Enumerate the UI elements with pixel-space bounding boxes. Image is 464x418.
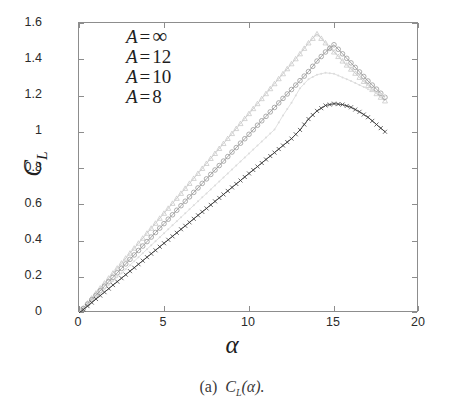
y-tick-label: 0.2	[0, 268, 42, 282]
x-axis-label: α	[0, 331, 464, 359]
cross-marker-icon	[84, 88, 124, 104]
legend-entry-label: A=8	[126, 87, 162, 106]
x-tick-label: 20	[398, 315, 438, 329]
legend-entry[interactable]: A=10	[84, 66, 204, 86]
x-tick-label: 5	[143, 315, 183, 329]
figure-caption: (a) CL(α).	[0, 378, 464, 398]
legend-entry-label: A=10	[126, 67, 171, 86]
y-tick-label: 1.4	[0, 51, 42, 65]
circle-marker-icon	[84, 48, 124, 64]
y-tick-label: 0.4	[0, 232, 42, 246]
y-tick-label: 0	[0, 304, 42, 318]
legend: A=∞ A=12 A=10 A=8	[84, 26, 204, 106]
legend-entry[interactable]: A=8	[84, 86, 204, 106]
dot-marker-icon	[84, 68, 124, 84]
x-tick-label: 15	[313, 315, 353, 329]
x-tick-label: 0	[58, 315, 98, 329]
y-tick-label: 1	[0, 123, 42, 137]
y-tick-label: 0.6	[0, 196, 42, 210]
legend-entry[interactable]: A=12	[84, 46, 204, 66]
legend-entry[interactable]: A=∞	[84, 26, 204, 46]
legend-entry-label: A=∞	[126, 26, 167, 47]
y-tick-label: 1.2	[0, 87, 42, 101]
triangle-marker-icon	[84, 28, 124, 44]
y-axis-label: CL	[19, 151, 51, 176]
x-tick-label: 10	[228, 315, 268, 329]
figure-container: 1.6 1.4 1.2 1 0.8 0.6 0.4 0.2 0 0 5 10 1…	[0, 0, 464, 418]
y-tick-label: 1.6	[0, 15, 42, 29]
legend-entry-label: A=12	[126, 47, 171, 66]
